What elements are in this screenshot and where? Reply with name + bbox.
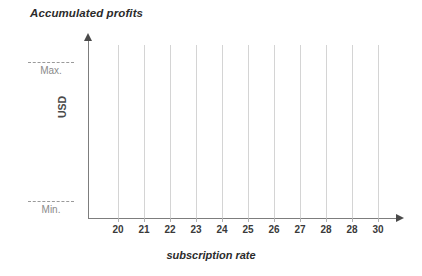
gridline bbox=[274, 45, 275, 218]
y-reference-label-min: Min. bbox=[28, 204, 74, 215]
gridline bbox=[144, 45, 145, 218]
y-axis-line bbox=[88, 40, 89, 218]
x-tick-mark bbox=[378, 218, 379, 222]
y-reference-marker-max: Max. bbox=[28, 62, 74, 76]
gridline bbox=[170, 45, 171, 218]
x-tick-mark bbox=[300, 218, 301, 222]
x-tick-mark bbox=[144, 218, 145, 222]
x-tick-label: 30 bbox=[363, 224, 393, 235]
x-tick-mark bbox=[352, 218, 353, 222]
gridline bbox=[326, 45, 327, 218]
arrow-right-icon bbox=[396, 214, 404, 222]
y-axis-title: USD bbox=[56, 96, 68, 118]
x-tick-mark bbox=[196, 218, 197, 222]
x-tick-mark bbox=[274, 218, 275, 222]
dashed-line bbox=[28, 201, 74, 202]
x-tick-mark bbox=[118, 218, 119, 222]
x-tick-mark bbox=[170, 218, 171, 222]
x-axis-line bbox=[88, 218, 397, 219]
x-axis-title: subscription rate bbox=[0, 249, 422, 261]
chart-container: Accumulated profits 20212223242526272828… bbox=[0, 0, 422, 276]
x-tick-mark bbox=[222, 218, 223, 222]
x-tick-mark bbox=[326, 218, 327, 222]
gridline bbox=[248, 45, 249, 218]
chart-title: Accumulated profits bbox=[30, 7, 143, 19]
gridline bbox=[196, 45, 197, 218]
gridline bbox=[378, 45, 379, 218]
dashed-line bbox=[28, 62, 74, 63]
gridline bbox=[222, 45, 223, 218]
plot-area bbox=[88, 45, 378, 218]
arrow-up-icon bbox=[84, 33, 92, 41]
gridline bbox=[300, 45, 301, 218]
gridline bbox=[118, 45, 119, 218]
y-reference-label-max: Max. bbox=[28, 65, 74, 76]
x-tick-mark bbox=[248, 218, 249, 222]
y-reference-marker-min: Min. bbox=[28, 201, 74, 215]
gridline bbox=[352, 45, 353, 218]
